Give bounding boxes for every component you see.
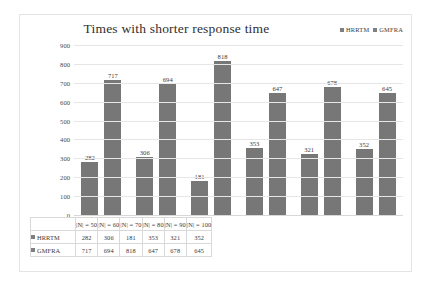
bar-value-label: 647 — [272, 85, 282, 92]
y-axis-tick-label: 900 — [60, 42, 70, 49]
legend-swatch-icon — [31, 235, 35, 239]
bar-hrrtm[interactable] — [136, 157, 153, 215]
data-table: |N| = 50|N| = 60|N| = 70|N| = 80|N| = 90… — [30, 217, 212, 257]
bar-holder: 282 — [81, 45, 98, 215]
bar-group: 282717 — [74, 45, 129, 215]
bar-value-label: 717 — [108, 72, 118, 79]
row-header-inner: GMFRA — [31, 247, 75, 254]
bar-holder: 647 — [269, 45, 286, 215]
legend-swatch-icon — [31, 248, 35, 252]
table-column-header: |N| = 50 — [76, 218, 98, 231]
legend-label-hrrtm: HRRTM — [346, 26, 369, 33]
table-corner-cell — [31, 218, 76, 231]
gridline — [74, 177, 403, 178]
table-row: GMFRA717694818647678645 — [31, 244, 212, 257]
table-column-header: |N| = 60 — [98, 218, 120, 231]
legend-label-gmfra: GMFRA — [379, 26, 403, 33]
legend-swatch-icon — [340, 28, 344, 32]
table-cell: 282 — [76, 231, 98, 244]
table-cell: 678 — [164, 244, 186, 257]
bar-holder: 352 — [356, 45, 373, 215]
bar-holder: 694 — [159, 45, 176, 215]
bar-group: 321678 — [293, 45, 348, 215]
table-cell: 306 — [98, 231, 120, 244]
gridline — [74, 158, 403, 159]
table-column-header: |N| = 80 — [142, 218, 164, 231]
y-axis-tick-label: 400 — [60, 136, 70, 143]
bar-value-label: 282 — [85, 154, 95, 161]
y-axis-tick-label: 500 — [60, 117, 70, 124]
row-header-label: GMFRA — [37, 247, 60, 254]
gridline — [74, 196, 403, 197]
bar-holder: 181 — [191, 45, 208, 215]
table-cell: 352 — [186, 231, 211, 244]
table-column-header: |N| = 100 — [186, 218, 211, 231]
bar-value-label: 353 — [249, 140, 259, 147]
bar-value-label: 321 — [304, 146, 314, 153]
y-axis-tick-label: 700 — [60, 79, 70, 86]
bar-group: 181818 — [184, 45, 239, 215]
bars-layer: 282717306694181818353647321678352645 — [74, 45, 403, 215]
gridline — [74, 83, 403, 84]
chart-legend: HRRTM GMFRA — [340, 26, 403, 33]
table-cell: 717 — [76, 244, 98, 257]
bar-group: 306694 — [129, 45, 184, 215]
table-cell: 181 — [120, 231, 142, 244]
bar-holder: 717 — [104, 45, 121, 215]
y-axis-tick-label: 600 — [60, 98, 70, 105]
row-header-inner: HRRTM — [31, 234, 75, 241]
bar-value-label: 645 — [382, 85, 392, 92]
table-column-header: |N| = 70 — [120, 218, 142, 231]
bar-holder: 818 — [214, 45, 231, 215]
bar-hrrtm[interactable] — [301, 154, 318, 215]
legend-item-hrrtm[interactable]: HRRTM — [340, 26, 369, 33]
legend-item-gmfra[interactable]: GMFRA — [373, 26, 403, 33]
table-row: HRRTM282306181353321352 — [31, 231, 212, 244]
gridline — [74, 45, 403, 46]
bar-hrrtm[interactable] — [191, 181, 208, 215]
table-cell: 694 — [98, 244, 120, 257]
bar-holder: 645 — [379, 45, 396, 215]
row-header-label: HRRTM — [37, 234, 60, 241]
data-table-body: |N| = 50|N| = 60|N| = 70|N| = 80|N| = 90… — [31, 218, 212, 257]
y-axis-tick-label: 800 — [60, 60, 70, 67]
bar-holder: 678 — [324, 45, 341, 215]
table-row-header: GMFRA — [31, 244, 76, 257]
gridline — [74, 102, 403, 103]
y-axis-tick-label: 300 — [60, 155, 70, 162]
legend-swatch-icon — [373, 28, 377, 32]
bar-group: 353647 — [238, 45, 293, 215]
table-cell: 353 — [142, 231, 164, 244]
table-cell: 645 — [186, 244, 211, 257]
bar-holder: 353 — [246, 45, 263, 215]
bar-hrrtm[interactable] — [81, 162, 98, 215]
gridline — [74, 64, 403, 65]
table-cell: 818 — [120, 244, 142, 257]
axis-baseline — [74, 215, 403, 216]
table-column-header: |N| = 90 — [164, 218, 186, 231]
table-header-row: |N| = 50|N| = 60|N| = 70|N| = 80|N| = 90… — [31, 218, 212, 231]
y-axis-tick-label: 200 — [60, 174, 70, 181]
table-row-header: HRRTM — [31, 231, 76, 244]
table-cell: 321 — [164, 231, 186, 244]
gridline — [74, 121, 403, 122]
chart-header: Times with shorter response time HRRTM G… — [20, 19, 411, 45]
plot-wrapper: 9008007006005004003002001000 28271730669… — [20, 45, 411, 231]
bar-value-label: 818 — [218, 53, 228, 60]
plot-area: 282717306694181818353647321678352645 — [74, 45, 403, 215]
chart-card: Times with shorter response time HRRTM G… — [19, 14, 412, 272]
bar-holder: 306 — [136, 45, 153, 215]
bar-value-label: 352 — [359, 141, 369, 148]
bar-gmfra[interactable] — [104, 80, 121, 215]
bar-holder: 321 — [301, 45, 318, 215]
y-axis-tick-label: 100 — [60, 193, 70, 200]
gridline — [74, 139, 403, 140]
table-cell: 647 — [142, 244, 164, 257]
bar-group: 352645 — [348, 45, 403, 215]
bar-value-label: 306 — [140, 149, 150, 156]
y-axis: 9008007006005004003002001000 — [30, 45, 74, 215]
